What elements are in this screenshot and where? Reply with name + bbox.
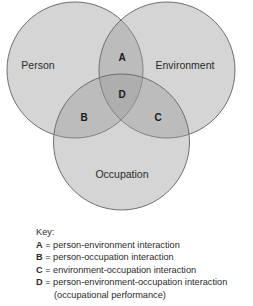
region-label-c: C [154,112,161,123]
key-item-a: A = person-environment interaction [36,239,227,252]
venn-diagram: PersonEnvironmentOccupationABCD [0,0,253,222]
key-item-c: C = environment-occupation interaction [36,264,227,277]
key-legend: Key: A = person-environment interaction … [36,226,227,302]
label-environment: Environment [156,59,215,71]
key-item-b: B = person-occupation interaction [36,251,227,264]
key-item-d: D = person-environment-occupation intera… [36,276,227,289]
region-label-a: A [118,52,125,63]
key-title: Key: [36,226,227,239]
key-item-d-continuation: (occupational performance) [36,289,227,302]
label-person: Person [21,59,54,71]
region-label-d: D [118,89,125,100]
label-occupation: Occupation [95,168,148,180]
region-label-b: B [80,112,87,123]
